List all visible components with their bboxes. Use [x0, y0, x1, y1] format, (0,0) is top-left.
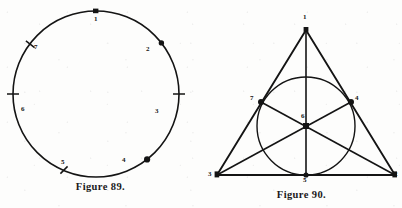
- point-label-4: 4: [122, 157, 126, 164]
- point-label-6: 6: [301, 113, 305, 120]
- point-marker-3: [215, 171, 220, 177]
- point-label-3: 3: [208, 171, 212, 178]
- point-label-2: 2: [146, 46, 150, 53]
- point-label-2: 2: [394, 171, 398, 178]
- point-marker-7: [258, 99, 264, 105]
- point-label-3: 3: [155, 108, 159, 115]
- point-marker-1: [93, 9, 98, 14]
- figure-89-caption: Figure 89.: [0, 181, 201, 192]
- circle-outline: [13, 11, 179, 177]
- point-marker-4: [144, 156, 150, 162]
- cevian-2-to-7: [261, 102, 395, 175]
- figure-plate: 1 2 3 4 5 6 7 Figure 89.: [0, 0, 402, 208]
- point-label-4: 4: [355, 95, 359, 102]
- figure-90-caption: Figure 90.: [201, 189, 402, 200]
- point-marker-2: [159, 40, 164, 45]
- point-marker-1: [304, 27, 309, 32]
- cevian-3-to-4: [217, 102, 351, 175]
- point-label-7: 7: [34, 44, 38, 51]
- point-label-6: 6: [21, 106, 25, 113]
- point-label-1: 1: [94, 16, 98, 23]
- figure-90-drawing: [201, 0, 402, 208]
- point-label-5: 5: [61, 159, 65, 166]
- figure-90: 1 2 3 4 5 6 7 Figure 90.: [201, 0, 402, 208]
- figure-89-drawing: [0, 0, 201, 208]
- point-label-5: 5: [303, 177, 307, 184]
- point-marker-6: [303, 123, 309, 129]
- point-label-7: 7: [250, 95, 254, 102]
- point-label-1: 1: [303, 14, 307, 21]
- figure-89: 1 2 3 4 5 6 7 Figure 89.: [0, 0, 201, 208]
- point-marker-4: [348, 99, 354, 105]
